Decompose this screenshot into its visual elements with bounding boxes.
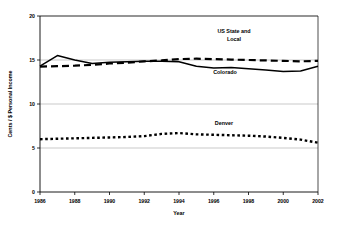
x-tick-label: 1996 xyxy=(208,198,220,204)
series-label-us-state-local-line1: US State and xyxy=(217,28,250,34)
x-axis-title: Year xyxy=(173,210,185,216)
x-tick-label: 1998 xyxy=(243,198,255,204)
x-axis-ticks: 198619881990199219941996199820002002 xyxy=(34,192,324,204)
series-label-denver: Denver xyxy=(215,120,234,126)
y-tick-label: 20 xyxy=(29,13,35,19)
chart-container: 05101520 1986198819901992199419961998200… xyxy=(0,0,337,228)
line-chart: 05101520 1986198819901992199419961998200… xyxy=(0,0,337,228)
x-tick-label: 1988 xyxy=(69,198,81,204)
y-tick-label: 0 xyxy=(32,189,35,195)
x-tick-label: 2002 xyxy=(312,198,324,204)
x-tick-label: 1990 xyxy=(104,198,116,204)
x-tick-label: 1994 xyxy=(173,198,185,204)
x-tick-label: 1992 xyxy=(138,198,150,204)
y-tick-label: 10 xyxy=(29,101,35,107)
y-axis-title: Cents / $ Personal Income xyxy=(7,70,13,137)
x-tick-label: 1986 xyxy=(34,198,46,204)
x-tick-label: 2000 xyxy=(277,198,289,204)
y-axis-ticks: 05101520 xyxy=(29,13,40,195)
series-label-colorado: Colorado xyxy=(213,69,237,75)
series-label-us-state-local-line2: Local xyxy=(227,36,242,42)
y-tick-label: 5 xyxy=(32,145,35,151)
y-tick-label: 15 xyxy=(29,57,35,63)
